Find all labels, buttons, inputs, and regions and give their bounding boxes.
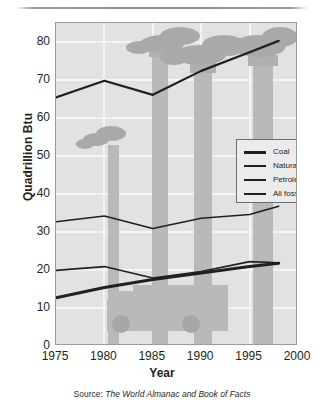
- x-tick-label: 1995: [229, 350, 269, 363]
- legend-swatch-icon: [244, 179, 266, 181]
- legend-item-petroleum: Petroleum: [244, 173, 297, 187]
- y-tick-label: 20: [4, 263, 50, 275]
- x-tick-label: 1980: [83, 350, 123, 363]
- y-tick-label: 10: [4, 301, 50, 313]
- y-tick-label: 80: [4, 35, 50, 47]
- series-line-all-fossil-fuels: [56, 41, 279, 98]
- x-tick-label: 1990: [180, 350, 220, 363]
- x-axis-ticks: 197519801985199019952000: [0, 350, 324, 366]
- x-tick-label: 2000: [277, 350, 317, 363]
- series-line-petroleum: [56, 206, 279, 228]
- legend-item-all-fossil-fuels: All fossil fuels: [244, 187, 297, 201]
- chart-legend: CoalNatural gasPetroleumAll fossil fuels: [236, 139, 297, 203]
- plot-area: CoalNatural gasPetroleumAll fossil fuels: [55, 22, 297, 345]
- x-tick-label: 1975: [35, 350, 75, 363]
- source-title: The World Almanac and Book of Facts: [105, 389, 250, 399]
- x-axis-label: Year: [0, 366, 324, 380]
- series-line-natural-gas: [56, 262, 279, 278]
- legend-item-label: Petroleum: [273, 176, 297, 184]
- legend-swatch-icon: [244, 151, 266, 154]
- legend-item-label: All fossil fuels: [273, 190, 297, 198]
- legend-swatch-icon: [244, 193, 266, 195]
- legend-swatch-icon: [244, 165, 266, 167]
- legend-item-label: Coal: [273, 148, 289, 156]
- y-axis-label: Quadrillion Btu: [21, 77, 35, 237]
- legend-item-natural-gas: Natural gas: [244, 159, 297, 173]
- legend-item-coal: Coal: [244, 145, 297, 159]
- legend-item-label: Natural gas: [273, 162, 297, 170]
- source-prefix: Source:: [74, 389, 106, 399]
- fossil-fuel-consumption-chart: 01020304050607080 Quadrillion Btu: [0, 0, 324, 411]
- source-caption: Source: The World Almanac and Book of Fa…: [0, 389, 324, 399]
- x-tick-label: 1985: [132, 350, 172, 363]
